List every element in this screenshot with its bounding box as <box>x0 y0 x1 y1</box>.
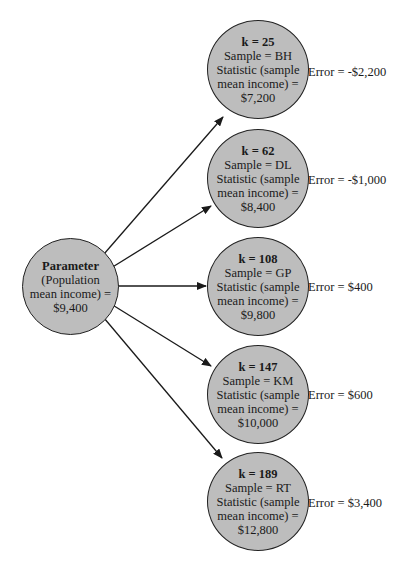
sample-node-5: k = 189 Sample = RT Statistic (sample me… <box>207 452 309 551</box>
statistic-line1: Statistic (sample <box>217 388 300 402</box>
error-label-1: Error = -$2,200 <box>308 65 386 79</box>
parameter-title: Parameter <box>42 259 99 273</box>
sample-k: k = 25 <box>242 35 275 49</box>
parameter-node: Parameter (Population mean income) = $9,… <box>22 238 119 335</box>
sample-id: Sample = BH <box>224 49 292 63</box>
error-label-3: Error = $400 <box>308 280 373 294</box>
sample-node-4: k = 147 Sample = KM Statistic (sample me… <box>207 345 309 444</box>
error-label-5: Error = $3,400 <box>308 496 382 510</box>
sample-node-3: k = 108 Sample = GP Statistic (sample me… <box>207 237 309 336</box>
error-label-4: Error = $600 <box>308 388 373 402</box>
sample-node-2: k = 62 Sample = DL Statistic (sample mea… <box>207 129 309 228</box>
sample-k: k = 108 <box>238 252 277 266</box>
arrow-to-sample-1 <box>104 117 223 254</box>
error-label-2: Error = -$1,000 <box>308 173 386 187</box>
parameter-line1: (Population <box>41 273 99 287</box>
statistic-value: $9,800 <box>241 308 275 322</box>
statistic-value: $12,800 <box>238 523 279 537</box>
sample-id: Sample = KM <box>223 374 294 388</box>
sample-k: k = 147 <box>238 360 277 374</box>
sample-id: Sample = GP <box>225 266 292 280</box>
statistic-value: $7,200 <box>241 91 275 105</box>
sample-id: Sample = DL <box>224 158 291 172</box>
parameter-line2: mean income) = <box>30 287 111 301</box>
statistic-line2: mean income) = <box>217 77 298 91</box>
arrow-to-sample-5 <box>104 318 222 458</box>
statistic-line2: mean income) = <box>217 186 298 200</box>
parameter-value: $9,400 <box>53 301 87 315</box>
sample-node-1: k = 25 Sample = BH Statistic (sample mea… <box>207 20 309 119</box>
sample-k: k = 62 <box>242 144 275 158</box>
statistic-value: $8,400 <box>241 200 275 214</box>
sampling-diagram: Parameter (Population mean income) = $9,… <box>0 0 399 571</box>
statistic-value: $10,000 <box>238 416 279 430</box>
sample-k: k = 189 <box>238 467 277 481</box>
arrow-to-sample-2 <box>111 206 211 268</box>
statistic-line2: mean income) = <box>217 294 298 308</box>
sample-id: Sample = RT <box>225 481 291 495</box>
arrow-to-sample-4 <box>111 304 211 366</box>
statistic-line1: Statistic (sample <box>217 63 300 77</box>
statistic-line1: Statistic (sample <box>217 280 300 294</box>
statistic-line1: Statistic (sample <box>217 495 300 509</box>
statistic-line2: mean income) = <box>217 509 298 523</box>
statistic-line1: Statistic (sample <box>217 172 300 186</box>
statistic-line2: mean income) = <box>217 402 298 416</box>
